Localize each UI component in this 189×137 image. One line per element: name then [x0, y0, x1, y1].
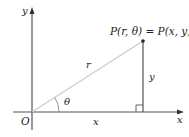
angle-label: θ — [64, 96, 70, 107]
point-label: P(r, θ) = P(x, y) — [109, 25, 189, 37]
point-p — [141, 39, 145, 43]
radius-line — [32, 41, 143, 112]
x-axis-label: x — [177, 114, 183, 125]
polar-coordinates-diagram: P(r, θ) = P(x, y) y x O r θ y x — [0, 0, 189, 137]
vertical-leg-label: y — [148, 71, 155, 82]
origin-label: O — [21, 115, 30, 127]
y-axis-label: y — [21, 5, 28, 16]
y-axis-arrow-icon — [30, 7, 35, 14]
angle-arc — [55, 98, 59, 113]
hypotenuse-label: r — [86, 59, 92, 70]
horizontal-leg-label: x — [93, 116, 99, 127]
right-angle-marker — [136, 105, 143, 112]
